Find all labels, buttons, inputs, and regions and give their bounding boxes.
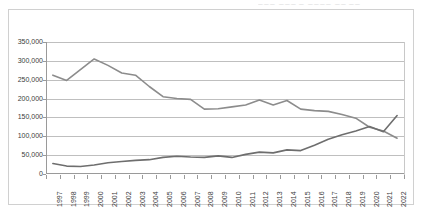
x-axis-label: 2012 (262, 191, 270, 207)
x-axis-tick (404, 175, 405, 179)
x-axis-tick (239, 175, 240, 179)
x-axis-tick (294, 175, 295, 179)
x-axis-tick (170, 175, 171, 179)
x-axis-label: 2008 (207, 191, 215, 207)
x-axis-label: 2004 (152, 191, 160, 207)
x-axis-tick (390, 175, 391, 179)
series-layer (46, 42, 404, 174)
y-axis: 050,000100,000150,000200,000250,000300,0… (0, 42, 43, 174)
x-axis-label: 2003 (139, 191, 147, 207)
x-axis-label: 2016 (318, 191, 326, 207)
y-axis-label: 50,000 (1, 151, 43, 158)
line-series-upper (53, 59, 397, 138)
x-axis-tick (142, 175, 143, 179)
x-axis-tick (115, 175, 116, 179)
x-axis-label: 1999 (83, 191, 91, 207)
x-axis-tick (211, 175, 212, 179)
x-axis-label: 2013 (276, 191, 284, 207)
x-axis-label: 2019 (359, 191, 367, 207)
x-axis: 1997199819992000200120022003200420052006… (46, 181, 404, 213)
y-axis-label: 100,000 (1, 132, 43, 139)
x-axis-tick (308, 175, 309, 179)
x-axis-label: 1997 (56, 191, 64, 207)
x-axis-tick (225, 175, 226, 179)
x-axis-label: 2000 (97, 191, 105, 207)
chart-screenshot: ▁▁▁ ▁▁▁ ▁ ▁▁▁▁ ▁▁ ▁▁ 050,000100,000150,0… (0, 0, 422, 218)
x-axis-tick (253, 175, 254, 179)
x-axis-tick (363, 175, 364, 179)
x-axis-label: 2010 (235, 191, 243, 207)
x-axis-tick (74, 175, 75, 179)
x-axis-label: 2011 (249, 192, 257, 207)
y-axis-label: 300,000 (1, 57, 43, 64)
x-axis-label: 2017 (331, 191, 339, 207)
x-axis-label: 2022 (400, 191, 408, 207)
y-axis-label: 150,000 (1, 113, 43, 120)
x-axis-label: 2005 (166, 191, 174, 207)
x-axis-label: 2014 (290, 191, 298, 207)
x-axis-ticks (46, 175, 404, 180)
x-axis-tick (335, 175, 336, 179)
x-axis-label: 2021 (386, 191, 394, 207)
x-axis-label: 2006 (180, 191, 188, 207)
x-axis-label: 2007 (194, 191, 202, 207)
line-series-lower (53, 116, 397, 167)
x-axis-tick (46, 175, 47, 179)
x-axis-tick (376, 175, 377, 179)
x-axis-tick (266, 175, 267, 179)
y-axis-label: 250,000 (1, 76, 43, 83)
x-axis-tick (129, 175, 130, 179)
x-axis-tick (101, 175, 102, 179)
x-axis-label: 2009 (221, 191, 229, 207)
x-axis-label: 2020 (373, 191, 381, 207)
plot-right-border (404, 42, 405, 175)
x-axis-label: 2001 (111, 191, 119, 207)
clipped-header-text: ▁▁▁ ▁▁▁ ▁ ▁▁▁▁ ▁▁ ▁▁ (258, 0, 408, 5)
x-axis-label: 2002 (125, 191, 133, 207)
x-axis-tick (87, 175, 88, 179)
x-axis-tick (184, 175, 185, 179)
x-axis-tick (321, 175, 322, 179)
y-axis-label: 350,000 (1, 38, 43, 45)
x-axis-label: 1998 (70, 191, 78, 207)
x-axis-tick (60, 175, 61, 179)
x-axis-label: 2018 (345, 191, 353, 207)
x-axis-tick (349, 175, 350, 179)
x-axis-label: 2015 (304, 191, 312, 207)
y-axis-label: 200,000 (1, 95, 43, 102)
x-axis-tick (280, 175, 281, 179)
x-axis-tick (197, 175, 198, 179)
x-axis-tick (156, 175, 157, 179)
y-axis-label: 0 (1, 170, 43, 177)
